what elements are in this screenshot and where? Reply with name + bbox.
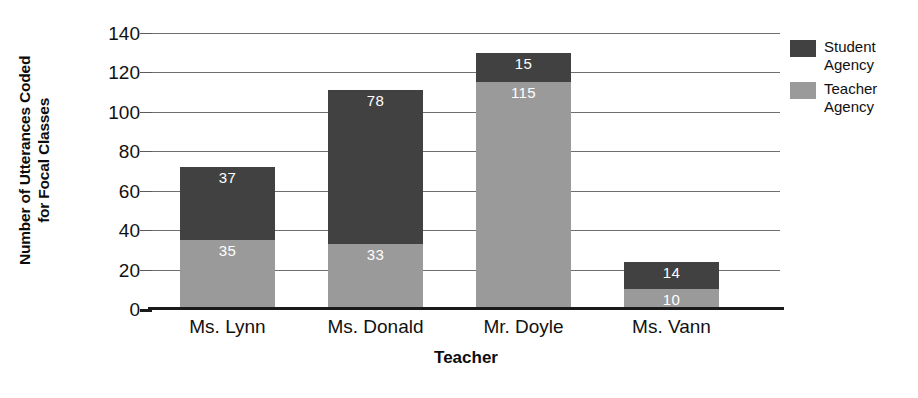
legend: StudentAgencyTeacherAgency bbox=[790, 38, 914, 122]
legend-item[interactable]: StudentAgency bbox=[790, 38, 914, 73]
gridline bbox=[152, 151, 780, 152]
bar-value-label: 35 bbox=[180, 242, 275, 259]
x-axis-line bbox=[148, 307, 784, 310]
y-tick-mark bbox=[140, 270, 152, 271]
bar-value-label: 14 bbox=[624, 264, 719, 281]
y-axis-title: Number of Utterances Coded for Focal Cla… bbox=[0, 0, 70, 320]
bar-segment-student-agency[interactable]: 78 bbox=[328, 90, 423, 244]
x-tick-label: Ms. Vann bbox=[592, 316, 752, 338]
y-tick-label: 40 bbox=[88, 221, 140, 240]
y-axis-ticks: 020406080100120140 bbox=[78, 33, 140, 309]
bar-segment-teacher-agency[interactable]: 115 bbox=[476, 82, 571, 309]
bar-segment-student-agency[interactable]: 37 bbox=[180, 167, 275, 240]
x-axis-title: Teacher bbox=[152, 348, 780, 368]
bar-stack[interactable]: 15115 bbox=[476, 53, 571, 309]
bar-segment-student-agency[interactable]: 15 bbox=[476, 53, 571, 83]
y-tick-mark bbox=[140, 230, 152, 231]
legend-swatch-icon bbox=[790, 40, 816, 57]
y-tick-label: 0 bbox=[88, 300, 140, 319]
bar-stack[interactable]: 3735 bbox=[180, 167, 275, 309]
y-tick-label: 20 bbox=[88, 260, 140, 279]
y-tick-label: 120 bbox=[88, 63, 140, 82]
legend-item[interactable]: TeacherAgency bbox=[790, 80, 914, 115]
bar-stack[interactable]: 1410 bbox=[624, 262, 719, 309]
gridline bbox=[152, 72, 780, 73]
bar-value-label: 78 bbox=[328, 92, 423, 109]
y-tick-label: 60 bbox=[88, 181, 140, 200]
bar-segment-student-agency[interactable]: 14 bbox=[624, 262, 719, 290]
y-tick-mark bbox=[140, 112, 152, 113]
bar-value-label: 37 bbox=[180, 169, 275, 186]
y-tick-mark bbox=[140, 72, 152, 73]
x-tick-label: Mr. Doyle bbox=[444, 316, 604, 338]
y-tick-label: 140 bbox=[88, 24, 140, 43]
stacked-bar-chart: Number of Utterances Coded for Focal Cla… bbox=[0, 0, 918, 398]
y-axis-title-line2: for Focal Classes bbox=[35, 55, 54, 264]
bar-value-label: 15 bbox=[476, 55, 571, 72]
gridline bbox=[152, 112, 780, 113]
y-tick-mark bbox=[140, 33, 152, 34]
y-tick-label: 100 bbox=[88, 102, 140, 121]
x-tick-label: Ms. Donald bbox=[296, 316, 456, 338]
gridline bbox=[152, 33, 780, 34]
bar-stack[interactable]: 7833 bbox=[328, 90, 423, 309]
legend-swatch-icon bbox=[790, 82, 816, 99]
bar-segment-teacher-agency[interactable]: 35 bbox=[180, 240, 275, 309]
legend-label: StudentAgency bbox=[824, 38, 876, 73]
bar-value-label: 33 bbox=[328, 246, 423, 263]
y-tick-mark bbox=[140, 191, 152, 192]
bar-segment-teacher-agency[interactable]: 33 bbox=[328, 244, 423, 309]
legend-label: TeacherAgency bbox=[824, 80, 877, 115]
y-tick-mark bbox=[140, 151, 152, 152]
bar-value-label: 115 bbox=[476, 84, 571, 101]
y-tick-label: 80 bbox=[88, 142, 140, 161]
bar-value-label: 10 bbox=[624, 291, 719, 308]
plot-area: 37357833151151410 bbox=[152, 33, 780, 309]
x-tick-label: Ms. Lynn bbox=[148, 316, 308, 338]
y-axis-title-line1: Number of Utterances Coded bbox=[16, 55, 35, 264]
